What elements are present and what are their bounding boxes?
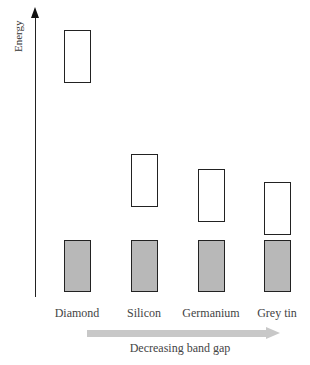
right-arrow-icon [266,327,280,339]
axis-arrowhead-icon [31,7,39,18]
band-gap-diagram: Energy Diamond Silicon Germanium Grey ti… [0,0,310,365]
energy-axis-label: Energy [12,20,24,52]
arrow-caption: Decreasing band gap [100,341,260,356]
grey-tin-conduction-band [264,182,291,235]
germanium-conduction-band [198,169,225,222]
silicon-conduction-band [131,154,158,207]
decreasing-arrow-shaft [87,330,267,337]
energy-axis-line [35,14,36,297]
grey-tin-label: Grey tin [237,306,310,321]
diamond-conduction-band [64,30,91,83]
silicon-valence-band [131,240,158,292]
grey-tin-valence-band [264,240,291,292]
diamond-valence-band [64,240,91,292]
germanium-valence-band [198,240,225,292]
